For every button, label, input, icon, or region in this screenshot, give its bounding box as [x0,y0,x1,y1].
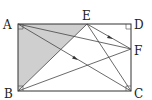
label-a: A [2,18,12,32]
label-b: B [4,87,13,100]
geometry-diagram: A E D F B C [0,0,152,100]
label-c: C [134,87,143,100]
right-angle-mark-d [126,24,131,29]
label-d: D [134,18,144,32]
label-e: E [82,9,91,23]
label-f: F [134,44,142,58]
